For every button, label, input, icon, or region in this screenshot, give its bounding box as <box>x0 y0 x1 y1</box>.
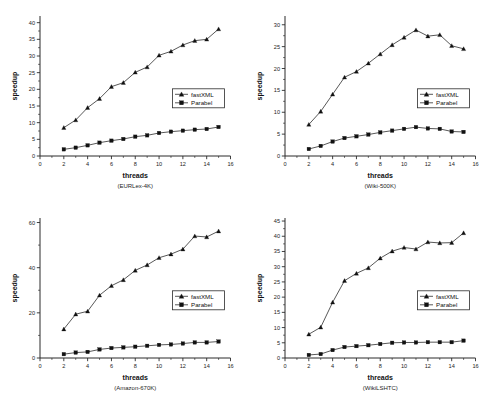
series-parabel <box>62 125 220 151</box>
x-axis-title: threads <box>123 374 148 381</box>
y-tick-label: 40 <box>29 20 35 26</box>
y-tick-label: 10 <box>29 120 35 126</box>
y-tick-label: 40 <box>273 233 279 239</box>
x-tick-label: 4 <box>331 161 334 167</box>
x-tick-label: 2 <box>307 161 310 167</box>
x-tick-label: 2 <box>62 161 65 167</box>
x-tick-label: 8 <box>378 161 381 167</box>
y-axis-title: speedup <box>256 274 264 303</box>
speedup-figure: 02468101214160510152025303540fastXMLPara… <box>0 0 489 404</box>
y-tick-label: 20 <box>273 66 279 72</box>
y-tick-label: 25 <box>273 279 279 285</box>
x-tick-label: 6 <box>354 363 357 369</box>
x-tick-label: 0 <box>38 161 41 167</box>
y-tick-label: 25 <box>29 70 35 76</box>
panel-caption: (WikiLSHTC) <box>362 385 397 391</box>
x-tick-label: 8 <box>134 363 137 369</box>
x-tick-label: 2 <box>62 363 65 369</box>
legend-label-fastxml: fastXML <box>191 91 214 98</box>
x-tick-label: 4 <box>331 363 334 369</box>
x-tick-label: 10 <box>156 363 162 369</box>
y-tick-label: 0 <box>276 355 279 361</box>
series-fastxml <box>62 229 221 331</box>
x-tick-label: 14 <box>204 363 210 369</box>
x-tick-label: 12 <box>424 363 430 369</box>
x-tick-label: 16 <box>472 363 478 369</box>
x-tick-label: 16 <box>227 161 233 167</box>
y-tick-label: 0 <box>276 153 279 159</box>
y-tick-label: 35 <box>29 36 35 42</box>
y-tick-label: 10 <box>273 325 279 331</box>
y-tick-label: 25 <box>273 44 279 50</box>
y-tick-label: 20 <box>273 294 279 300</box>
y-axis-title: speedup <box>11 72 19 101</box>
y-tick-label: 60 <box>29 220 35 226</box>
legend-label-parabel: Parabel <box>191 99 212 106</box>
legend-label-parabel: Parabel <box>436 301 457 308</box>
y-tick-label: 40 <box>29 265 35 271</box>
x-tick-label: 2 <box>307 363 310 369</box>
legend-label-fastxml: fastXML <box>436 91 459 98</box>
chart-legend: fastXMLParabel <box>417 291 469 310</box>
legend-label-parabel: Parabel <box>436 99 457 106</box>
x-axis-title: threads <box>367 172 392 179</box>
x-axis-title: threads <box>367 374 392 381</box>
x-tick-label: 4 <box>86 161 89 167</box>
x-tick-label: 14 <box>448 363 454 369</box>
x-tick-label: 10 <box>400 363 406 369</box>
x-tick-label: 12 <box>180 161 186 167</box>
x-tick-label: 8 <box>378 363 381 369</box>
x-tick-label: 14 <box>448 161 454 167</box>
x-tick-label: 10 <box>156 161 162 167</box>
x-tick-label: 0 <box>283 363 286 369</box>
y-tick-label: 15 <box>273 87 279 93</box>
y-tick-label: 5 <box>276 340 279 346</box>
y-tick-label: 0 <box>32 355 35 361</box>
x-tick-label: 8 <box>134 161 137 167</box>
x-tick-label: 0 <box>38 363 41 369</box>
y-tick-label: 5 <box>32 136 35 142</box>
y-tick-label: 30 <box>273 22 279 28</box>
chart-panel-3: 02468101214160204060fastXMLParabelthread… <box>0 202 245 404</box>
y-tick-label: 10 <box>273 109 279 115</box>
chart-panel-4: 0246810121416051015202530354045fastXMLPa… <box>245 202 489 404</box>
x-tick-label: 0 <box>283 161 286 167</box>
x-tick-label: 6 <box>354 161 357 167</box>
series-parabel <box>307 339 465 357</box>
y-tick-label: 15 <box>273 309 279 315</box>
x-tick-label: 12 <box>424 161 430 167</box>
x-tick-label: 10 <box>400 161 406 167</box>
y-axis-title: speedup <box>256 72 264 101</box>
x-tick-label: 12 <box>180 363 186 369</box>
y-tick-label: 0 <box>32 153 35 159</box>
legend-label-fastxml: fastXML <box>191 293 214 300</box>
chart-legend: fastXMLParabel <box>173 89 225 108</box>
x-tick-label: 14 <box>204 161 210 167</box>
y-tick-label: 35 <box>273 248 279 254</box>
series-parabel <box>62 340 220 356</box>
y-tick-label: 5 <box>276 131 279 137</box>
chart-panel-2: 0246810121416051015202530fastXMLParabelt… <box>245 0 489 202</box>
chart-panel-1: 02468101214160510152025303540fastXMLPara… <box>0 0 245 202</box>
x-tick-label: 6 <box>110 161 113 167</box>
y-axis-title: speedup <box>11 274 19 303</box>
x-tick-label: 16 <box>472 161 478 167</box>
y-tick-label: 30 <box>29 53 35 59</box>
y-tick-label: 15 <box>29 103 35 109</box>
y-tick-label: 20 <box>29 310 35 316</box>
series-parabel <box>307 125 465 150</box>
panel-caption: (EURLex-4K) <box>117 183 153 189</box>
x-tick-label: 4 <box>86 363 89 369</box>
chart-legend: fastXMLParabel <box>173 291 225 310</box>
x-tick-label: 6 <box>110 363 113 369</box>
legend-label-fastxml: fastXML <box>436 293 459 300</box>
y-tick-label: 20 <box>29 86 35 92</box>
series-fastxml <box>62 27 221 130</box>
x-axis-title: threads <box>123 172 148 179</box>
chart-legend: fastXMLParabel <box>417 89 469 108</box>
panel-caption: (Amazon-670K) <box>114 385 156 391</box>
series-fastxml <box>306 231 465 336</box>
series-fastxml <box>306 28 465 126</box>
x-tick-label: 16 <box>227 363 233 369</box>
y-tick-label: 45 <box>273 218 279 224</box>
